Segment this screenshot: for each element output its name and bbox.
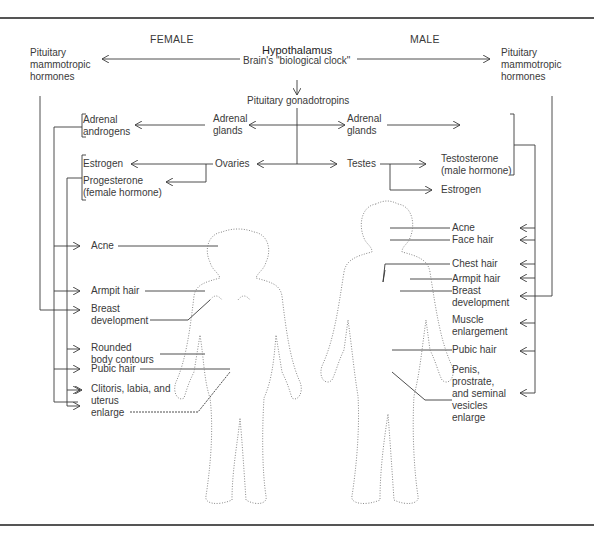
female-estrogen-label: Estrogen: [83, 158, 123, 170]
male-effect-chest-hair: Chest hair: [452, 258, 498, 270]
adrenal-glands-female: Adrenalglands: [213, 113, 247, 137]
adrenal-androgens-label: Adrenalandrogens: [83, 114, 130, 138]
male-effect-face-hair: Face hair: [452, 234, 494, 246]
female-effect-armpit-hair: Armpit hair: [91, 285, 139, 297]
female-effect-clitoris: Clitoris, labia, anduterusenlarge: [91, 383, 170, 419]
male-effect-penis-prostrate: Penis,prostrate,and seminalvesiclesenlar…: [452, 364, 506, 424]
female-effect-pubic-hair: Pubic hair: [91, 363, 135, 375]
testosterone-label: Testosterone(male hormone): [441, 153, 512, 177]
male-effect-breast-development: Breastdevelopment: [452, 285, 509, 309]
male-effect-pubic-hair: Pubic hair: [452, 344, 496, 356]
female-effect-breast-development: Breastdevelopment: [91, 303, 148, 327]
female-header: FEMALE: [150, 33, 194, 45]
male-header: MALE: [410, 33, 440, 45]
male-estrogen-label: Estrogen: [441, 184, 481, 196]
female-pituitary-mammotropic: Pituitarymammotropichormones: [30, 47, 91, 83]
male-effect-armpit-hair: Armpit hair: [452, 273, 500, 285]
male-effect-acne: Acne: [452, 222, 475, 234]
male-effect-muscle-enlargement: Muscleenlargement: [452, 314, 508, 338]
pituitary-gonadotropins-label: Pituitary gonadotropins: [247, 95, 349, 107]
male-pituitary-mammotropic: Pituitarymammotropichormones: [501, 47, 562, 83]
female-body-outline: [175, 229, 302, 503]
adrenal-glands-male: Adrenalglands: [347, 113, 381, 137]
testes-label: Testes: [347, 158, 376, 170]
biological-clock-label: Brain's "biological clock": [243, 55, 350, 67]
female-effect-acne: Acne: [91, 240, 114, 252]
male-body-outline: [321, 201, 453, 503]
progesterone-label: Progesterone(female hormone): [83, 175, 162, 199]
ovaries-label: Ovaries: [215, 158, 249, 170]
